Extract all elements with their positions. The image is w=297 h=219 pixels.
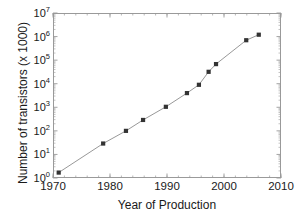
y-axis-title: Number of transistors (x 1000) — [16, 18, 30, 188]
data-point — [257, 33, 261, 37]
data-point — [141, 118, 145, 122]
data-point — [244, 38, 248, 42]
x-axis-major-ticks — [53, 13, 281, 178]
x-axis-tick-label: 2000 — [211, 180, 237, 192]
x-axis-tick-label: 1980 — [97, 180, 123, 192]
y-axis-tick-label: 104 — [34, 78, 50, 89]
data-point — [124, 129, 128, 133]
x-axis-tick-label: 2010 — [268, 180, 294, 192]
data-point — [207, 70, 211, 74]
y-axis-tick-label: 106 — [34, 31, 50, 42]
data-point — [197, 83, 201, 87]
data-point — [57, 170, 61, 174]
data-point — [164, 105, 168, 109]
data-series-markers — [57, 33, 261, 175]
y-axis-major-ticks — [53, 13, 281, 178]
chart-container: 100101102103104105106107 197019801990200… — [0, 0, 297, 219]
data-point — [101, 141, 105, 145]
y-axis-tick-label: 107 — [34, 8, 50, 19]
x-axis-tick-label: 1970 — [40, 180, 66, 192]
data-point — [214, 62, 218, 66]
data-point — [185, 91, 189, 95]
x-axis-minor-ticks — [53, 13, 281, 178]
x-axis-title: Year of Production — [53, 198, 281, 212]
y-axis-tick-label: 105 — [34, 55, 50, 66]
x-axis-tick-label: 1990 — [154, 180, 180, 192]
y-axis-tick-label: 103 — [34, 102, 50, 113]
y-axis-tick-label: 102 — [34, 125, 50, 136]
data-series-line — [59, 35, 259, 173]
y-axis-tick-label: 101 — [34, 149, 50, 160]
